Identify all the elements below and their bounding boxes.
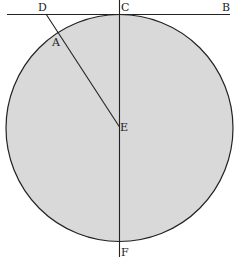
label-b: B (222, 1, 230, 14)
label-e: E (120, 121, 128, 134)
geometry-diagram: D C B A E F (0, 0, 237, 263)
label-f: F (121, 246, 129, 259)
label-d: D (38, 1, 47, 14)
label-a: A (51, 36, 61, 49)
label-c: C (121, 1, 129, 14)
